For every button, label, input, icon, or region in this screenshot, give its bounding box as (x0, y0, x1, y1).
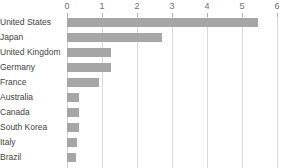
x-tick-label: 3 (161, 1, 183, 12)
bar (67, 108, 79, 117)
gridline-3 (172, 17, 173, 168)
plot-area (67, 17, 278, 168)
category-label: Italy (0, 137, 63, 148)
category-label: Australia (0, 92, 63, 103)
category-label: Canada (0, 107, 63, 118)
category-label: France (0, 77, 63, 88)
x-tick-label: 0 (56, 1, 78, 12)
x-tick-label: 1 (91, 1, 113, 12)
category-label: Japan (0, 32, 63, 43)
x-tick-label: 5 (231, 1, 253, 12)
bar (67, 138, 77, 147)
category-label: Germany (0, 62, 63, 73)
category-label: United Kingdom (0, 47, 63, 58)
bar (67, 33, 162, 42)
bar-chart: 0123456 United StatesJapanUnited Kingdom… (0, 0, 286, 168)
x-tick-label: 2 (126, 1, 148, 12)
bar (67, 63, 111, 72)
bar (67, 93, 79, 102)
bar (67, 153, 76, 162)
x-tick-label: 4 (196, 1, 218, 12)
bar (67, 123, 79, 132)
category-label: Brazil (0, 152, 63, 163)
category-label: United States (0, 17, 63, 28)
bar (67, 78, 99, 87)
gridline-5 (242, 17, 243, 168)
gridline-6 (277, 17, 278, 168)
bar (67, 48, 111, 57)
gridline-4 (207, 17, 208, 168)
x-tick-label: 6 (266, 1, 286, 12)
bar (67, 18, 258, 27)
category-label: South Korea (0, 122, 63, 133)
